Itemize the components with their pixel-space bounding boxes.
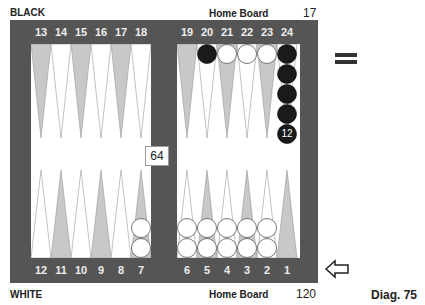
stack-count-point-24: 12 [278, 128, 296, 139]
diagram-label: Diag. 75 [371, 288, 417, 302]
top-home-board-label: Home Board [209, 8, 268, 19]
right-points [177, 44, 300, 258]
right-inner-board: 12 [177, 44, 300, 258]
arrow-left-icon [324, 258, 350, 280]
white-checkers-top [218, 45, 277, 64]
white-pip-count: 120 [296, 287, 316, 301]
left-points [31, 44, 151, 258]
white-player-label: WHITE [10, 289, 42, 300]
black-pip-count: 17 [303, 6, 316, 20]
left-inner-board [31, 44, 151, 258]
black-player-label: BLACK [10, 7, 45, 18]
doubling-cube: 64 [145, 146, 169, 166]
bottom-home-board-label: Home Board [209, 289, 268, 300]
